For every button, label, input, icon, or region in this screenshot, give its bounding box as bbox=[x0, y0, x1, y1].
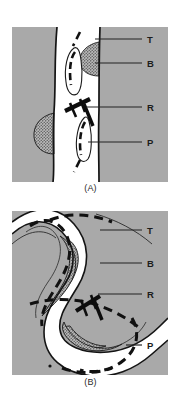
lower-country-rock-b bbox=[12, 216, 168, 374]
band-hairline-upper bbox=[26, 226, 60, 318]
dashed-marker-upper-b bbox=[30, 220, 70, 326]
rake-tail-b bbox=[94, 300, 102, 320]
dashed-marker-middle-b bbox=[30, 300, 142, 331]
stipple-body-lower-b2 bbox=[62, 322, 122, 351]
band-contact-inner bbox=[12, 222, 168, 377]
rake-tick-b1 bbox=[81, 300, 87, 316]
rake-symbol-b bbox=[76, 295, 102, 320]
dashed-marker-lower-b bbox=[80, 318, 137, 372]
label-t-b: T bbox=[147, 225, 153, 236]
dashed-marker-dot-b bbox=[48, 364, 51, 367]
label-b: B bbox=[147, 58, 154, 69]
limb-line-upper-left bbox=[12, 232, 56, 244]
figure-root: T B R P (A) bbox=[0, 0, 181, 406]
caption-panel-b: (B) bbox=[0, 377, 181, 387]
rake-bar-b bbox=[76, 296, 100, 311]
label-t: T bbox=[147, 34, 153, 45]
stipple-body-upper-b2 bbox=[42, 236, 76, 316]
limb-line-upper-right bbox=[96, 214, 152, 244]
band-contact-outer bbox=[12, 209, 168, 352]
tabular-band-fill-b bbox=[12, 209, 168, 376]
panel-b-annotations: T B R P bbox=[98, 225, 154, 351]
panel-a-content bbox=[12, 27, 168, 182]
stipple-body-lower-b bbox=[65, 326, 106, 348]
label-p: P bbox=[147, 137, 154, 148]
panel-a: T B R P (A) bbox=[0, 0, 181, 200]
band-hairline-lower bbox=[122, 322, 146, 344]
country-rock-fill-b bbox=[12, 211, 168, 375]
label-r: R bbox=[147, 102, 154, 113]
rake-tick-b2 bbox=[91, 295, 96, 309]
panel-b-content bbox=[12, 209, 168, 376]
dashed-marker-crest-b bbox=[50, 215, 112, 222]
caption-panel-a: (A) bbox=[0, 183, 181, 193]
label-r-b: R bbox=[147, 289, 154, 300]
panel-a-drawing: T B R P bbox=[0, 0, 181, 200]
stipple-body-upper-b bbox=[50, 238, 78, 306]
label-b-b: B bbox=[147, 258, 154, 269]
dashed-marker-bottom-b bbox=[62, 368, 112, 373]
label-p-b: P bbox=[147, 340, 154, 351]
